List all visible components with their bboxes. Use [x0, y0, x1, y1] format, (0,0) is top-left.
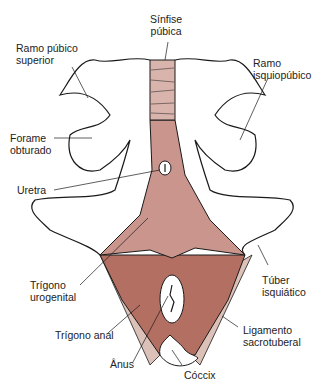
label-uretra: Uretra: [17, 185, 46, 197]
label-ligamento-sacrotuberal: Ligamento sacrotuberal: [243, 325, 301, 348]
label-forame-obturado: Forame obturado: [10, 133, 51, 156]
label-coccix: Cóccix: [184, 370, 216, 382]
label-trigono-anal: Trígono anal: [55, 330, 114, 342]
perineum-diagram: Sínfise púbica Ramo púbico superior Ramo…: [0, 0, 325, 386]
label-ramo-pubico-superior: Ramo púbico superior: [16, 43, 78, 66]
label-anus: Ânus: [110, 359, 134, 371]
label-tuber-isquiatico: Túber isquiático: [262, 275, 306, 298]
label-ramo-isquiopubico: Ramo isquiopúbico: [253, 58, 311, 81]
label-sinfise-publica: Sínfise púbica: [150, 14, 182, 37]
label-trigono-urogenital: Trígono urogenital: [30, 280, 76, 303]
